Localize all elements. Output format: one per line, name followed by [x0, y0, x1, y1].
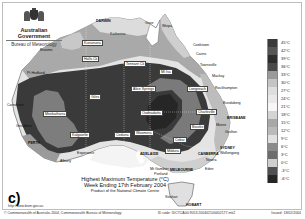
- legend-swatch: [267, 47, 278, 55]
- legend-swatch: [267, 39, 278, 47]
- legend-item: 21°C: [267, 103, 290, 111]
- city-label: Mt Gambier: [150, 167, 169, 171]
- legend-swatch: [267, 79, 278, 87]
- city-label: Carnarvon: [7, 103, 24, 107]
- city-label: Mt Isa: [159, 69, 173, 75]
- legend-swatch: [267, 167, 278, 175]
- legend-label: 39°C: [281, 55, 290, 63]
- agency-name: Bureau of Meteorology: [6, 42, 62, 47]
- city-label: Bundaberg: [223, 101, 241, 105]
- legend-swatch: [267, 159, 278, 167]
- city-label: Charleville: [196, 109, 217, 115]
- map-title-block: Highest Maximum Temperature (°C) Week En…: [70, 176, 180, 194]
- city-label: Townsville: [200, 63, 216, 67]
- legend-label: 27°C: [281, 87, 290, 95]
- legend-swatch: [267, 103, 278, 111]
- government-name: Australian Government: [6, 27, 62, 41]
- legend-item: 6°C: [267, 143, 290, 151]
- legend-swatch: [267, 55, 278, 63]
- website-link[interactable]: http://www.bom.gov.au: [8, 204, 43, 208]
- city-label: Woomera: [134, 130, 154, 136]
- city-label: Ceduna: [114, 132, 131, 138]
- city-label: Albany: [60, 159, 71, 163]
- temperature-legend: 45°C42°C39°C36°C33°C30°C27°C24°C21°C18°C…: [267, 39, 290, 183]
- legend-item: 36°C: [267, 63, 290, 71]
- legend-swatch: [267, 71, 278, 79]
- legend-label: 36°C: [281, 63, 290, 71]
- legend-label: 3°C: [281, 151, 288, 159]
- city-label: Eden: [205, 167, 213, 171]
- legend-item: 0°C: [267, 159, 290, 167]
- city-label: Meekatharra: [43, 111, 67, 117]
- city-label: BRISBANE: [227, 116, 246, 120]
- legend-label: 42°C: [281, 47, 290, 55]
- city-label: Rockhampton: [215, 86, 237, 90]
- legend-swatch: [267, 111, 278, 119]
- city-label: Kununurra: [82, 40, 103, 46]
- legend-label: 9°C: [281, 135, 288, 143]
- coat-of-arms-icon: [23, 8, 45, 24]
- city-label: Alice Springs: [131, 86, 156, 92]
- city-label: Broome: [40, 48, 53, 52]
- city-label: Moree: [216, 123, 226, 127]
- city-label: Pt Hedland: [27, 71, 45, 75]
- legend-swatch: [267, 175, 278, 183]
- legend-swatch: [267, 63, 278, 71]
- legend-label: 12°C: [281, 127, 290, 135]
- city-label: Strahan: [165, 195, 178, 199]
- legend-label: 30°C: [281, 79, 290, 87]
- legend-item: 24°C: [267, 95, 290, 103]
- legend-label: 24°C: [281, 95, 290, 103]
- city-label: Katherine: [110, 32, 125, 36]
- map-credit: Product of the National Climate Centre: [70, 188, 180, 194]
- legend-label: -6°C: [281, 175, 289, 183]
- legend-item: 33°C: [267, 71, 290, 79]
- city-label: SYDNEY: [220, 146, 235, 150]
- footer: © Commonwealth of Australia 2004, Common…: [2, 211, 303, 218]
- city-label: Oodnadatta: [140, 110, 163, 116]
- legend-item: -3°C: [267, 167, 290, 175]
- legend-swatch: [267, 95, 278, 103]
- city-label: Nowra: [206, 158, 216, 162]
- city-label: Gove: [145, 21, 154, 25]
- city-label: Esperance: [77, 151, 94, 155]
- id-code: ID code: IDCTCA00.9053.200402100402177.m…: [158, 211, 235, 218]
- legend-label: 33°C: [281, 71, 290, 79]
- city-label: DARWIN: [96, 19, 111, 23]
- city-label: CANBERRA: [198, 152, 219, 156]
- city-label: Giles: [89, 94, 101, 100]
- legend-label: 0°C: [281, 159, 288, 167]
- legend-item: 15°C: [267, 119, 290, 127]
- legend-label: 18°C: [281, 111, 290, 119]
- city-label: Geraldton: [16, 124, 32, 128]
- legend-item: 30°C: [267, 79, 290, 87]
- legend-item: 45°C: [267, 39, 290, 47]
- city-label: ADELAIDE: [140, 152, 158, 156]
- legend-swatch: [267, 135, 278, 143]
- city-label: PERTH: [28, 141, 40, 145]
- legend-swatch: [267, 143, 278, 151]
- legend-swatch: [267, 127, 278, 135]
- city-label: MELBOURNE: [170, 168, 193, 172]
- legend-label: 6°C: [281, 143, 288, 151]
- issued-date: Issued: 18/02/2004: [271, 211, 301, 218]
- legend-item: 42°C: [267, 47, 290, 55]
- legend-item: 27°C: [267, 87, 290, 95]
- legend-label: 45°C: [281, 39, 290, 47]
- legend-swatch: [267, 87, 278, 95]
- city-label: Grafton: [225, 130, 237, 134]
- legend-label: -3°C: [281, 167, 289, 175]
- legend-item: 18°C: [267, 111, 290, 119]
- bom-logo: Australian Government Bureau of Meteorol…: [6, 8, 62, 47]
- city-label: Halls Ck: [82, 56, 99, 62]
- copyright-text: © Commonwealth of Australia 2004, Common…: [4, 211, 122, 218]
- legend-label: 15°C: [281, 119, 290, 127]
- legend-item: 12°C: [267, 127, 290, 135]
- city-label: Cooktown: [193, 43, 209, 47]
- city-label: Weipa: [162, 24, 172, 28]
- city-label: Cobar: [173, 137, 187, 143]
- city-label: Wollongong: [220, 151, 239, 155]
- legend-item: 39°C: [267, 55, 290, 63]
- legend-item: 9°C: [267, 135, 290, 143]
- city-label: Tennant Ck: [124, 61, 146, 67]
